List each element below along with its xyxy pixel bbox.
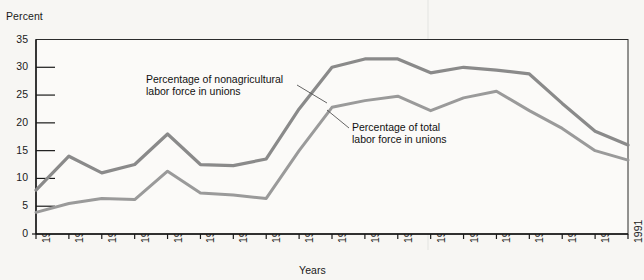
annotation-nonagricultural: Percentage of nonagricultural labor forc… (146, 74, 283, 97)
annotation-total: Percentage of total labor force in union… (352, 122, 447, 145)
